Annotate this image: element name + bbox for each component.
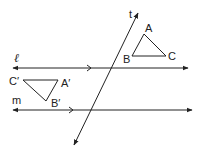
diagram-canvas: t ℓ m A B C C′ A′ B′ [0, 0, 200, 156]
label-c: C [168, 50, 176, 62]
label-a: A [145, 22, 153, 34]
label-b-prime: B′ [51, 97, 60, 109]
transversal-t [74, 13, 138, 145]
label-m: m [12, 94, 21, 106]
triangle-abc [132, 34, 166, 56]
label-a-prime: A′ [61, 77, 70, 89]
label-c-prime: C′ [9, 75, 19, 87]
label-t: t [129, 8, 132, 20]
label-l: ℓ [14, 51, 19, 65]
geometry-figure: t ℓ m A B C C′ A′ B′ [0, 0, 200, 156]
label-b: B [123, 53, 130, 65]
